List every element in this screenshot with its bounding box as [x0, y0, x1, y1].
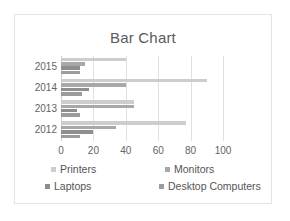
bar-group-2014: [61, 77, 223, 98]
x-tick-label-80: 80: [185, 145, 196, 156]
chart-frame: Bar Chart 2015201420132012 020406080100 …: [14, 14, 272, 204]
legend-label: Monitors: [174, 163, 214, 175]
legend-item-laptops[interactable]: Laptops: [45, 180, 91, 192]
x-tick-label-20: 20: [88, 145, 99, 156]
bar-2013-laptops[interactable]: [61, 109, 77, 113]
x-axis-tick-labels: 020406080100: [61, 145, 223, 159]
legend-swatch-icon: [51, 167, 56, 172]
legend-label: Printers: [60, 163, 96, 175]
bar-2013-desktop-computers[interactable]: [61, 113, 80, 117]
bar-2014-laptops[interactable]: [61, 88, 89, 92]
gridline-100: [223, 56, 224, 141]
y-tick-label-2013: 2013: [23, 104, 57, 114]
plot-area: [61, 56, 223, 141]
legend-label: Desktop Computers: [168, 180, 261, 192]
bar-2014-monitors[interactable]: [61, 83, 126, 87]
legend-label: Laptops: [54, 180, 91, 192]
bar-2015-monitors[interactable]: [61, 62, 85, 66]
x-tick-label-100: 100: [215, 145, 232, 156]
bar-2012-laptops[interactable]: [61, 130, 93, 134]
bar-2012-printers[interactable]: [61, 121, 186, 125]
x-tick-label-40: 40: [120, 145, 131, 156]
bar-2012-desktop-computers[interactable]: [61, 135, 80, 139]
bar-2013-monitors[interactable]: [61, 105, 134, 109]
x-tick-label-60: 60: [153, 145, 164, 156]
y-tick-label-2012: 2012: [23, 125, 57, 135]
x-tick-label-0: 0: [58, 145, 64, 156]
legend-swatch-icon: [159, 184, 164, 189]
bar-2014-desktop-computers[interactable]: [61, 92, 82, 96]
y-tick-label-2014: 2014: [23, 83, 57, 93]
chart-legend: PrintersMonitorsLaptopsDesktop Computers: [37, 163, 273, 203]
bar-2015-printers[interactable]: [61, 58, 126, 62]
y-tick-label-2015: 2015: [23, 62, 57, 72]
bar-group-2012: [61, 120, 223, 141]
bar-2015-laptops[interactable]: [61, 66, 80, 70]
legend-swatch-icon: [165, 167, 170, 172]
legend-item-printers[interactable]: Printers: [51, 163, 96, 175]
legend-item-desktop-computers[interactable]: Desktop Computers: [159, 180, 261, 192]
bar-2012-monitors[interactable]: [61, 126, 116, 130]
legend-item-monitors[interactable]: Monitors: [165, 163, 214, 175]
bar-2015-desktop-computers[interactable]: [61, 71, 80, 75]
y-axis-category-labels: 2015201420132012: [21, 56, 57, 141]
bar-group-2013: [61, 99, 223, 120]
bar-group-2015: [61, 56, 223, 77]
bar-2013-printers[interactable]: [61, 100, 134, 104]
bar-2014-printers[interactable]: [61, 79, 207, 83]
chart-title: Bar Chart: [15, 29, 271, 46]
legend-swatch-icon: [45, 184, 50, 189]
